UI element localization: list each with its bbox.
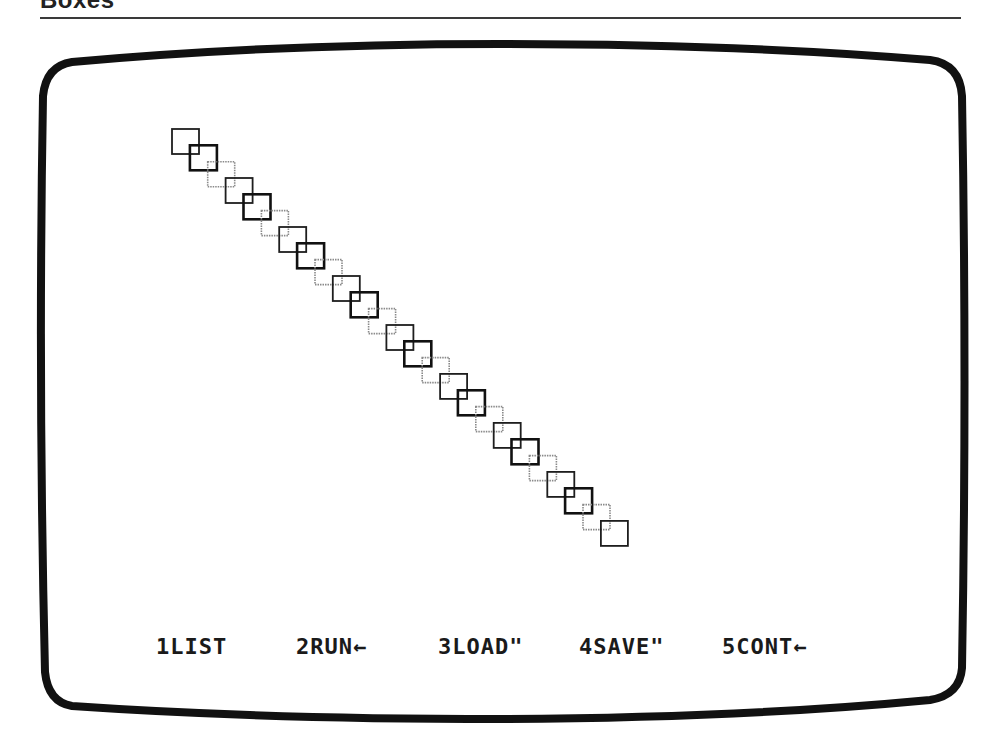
box-thick [512,439,539,464]
box-medium [279,227,306,252]
fkey-4-save: 4SAVE" [579,634,664,660]
box-dotted-gray [476,407,503,432]
box-medium [601,521,628,546]
box-dotted-gray [583,505,610,530]
fkey-3-load: 3LOAD" [438,634,523,660]
box-medium [547,472,574,497]
box-dotted-gray [208,162,235,187]
box-dotted-gray [369,309,396,334]
box-thick [565,488,592,513]
fkey-2-run: 2RUN← [296,634,367,660]
box-thick [458,390,485,415]
fkey-5-cont: 5CONT← [722,634,807,660]
box-thick [190,145,217,170]
box-medium [226,178,253,203]
box-dotted-gray [261,211,288,236]
box-dotted-gray [529,456,556,481]
box-medium [440,374,467,399]
fkey-1-list: 1LIST [156,634,227,660]
crt-screen-frame [41,44,965,719]
box-thick [297,243,324,268]
box-thick [404,341,431,366]
box-medium [172,129,199,154]
box-medium [494,423,521,448]
diagonal-box-chain [172,129,628,546]
function-key-bar: 1LIST 2RUN← 3LOAD" 4SAVE" 5CONT← [0,634,1003,660]
box-dotted-gray [422,358,449,383]
box-medium [386,325,413,350]
box-medium [333,276,360,301]
crt-screen-figure [0,0,1003,734]
box-thick [244,194,271,219]
box-thick [351,292,378,317]
box-dotted-gray [315,260,342,285]
